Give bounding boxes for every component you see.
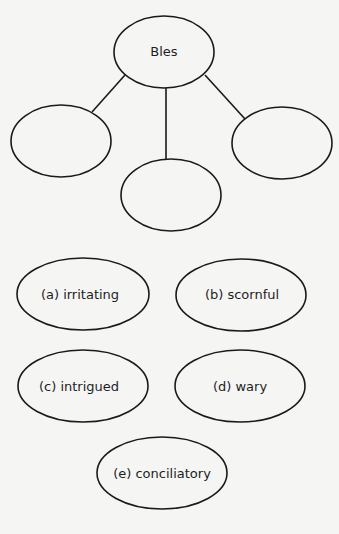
word-web-diagram: Bles (a) irritating (b) scornful (c) int…	[0, 0, 339, 534]
center-node-label: Bles	[150, 45, 177, 58]
option-b-label: (b) scornful	[205, 288, 279, 301]
spoke-node-middle[interactable]	[121, 159, 221, 231]
diagram-shapes	[0, 0, 339, 534]
spoke-node-right[interactable]	[232, 107, 332, 179]
connector-right	[205, 75, 245, 119]
option-a-label: (a) irritating	[41, 288, 119, 301]
option-d-label: (d) wary	[213, 380, 267, 393]
option-c-label: (c) intrigued	[39, 380, 119, 393]
spoke-node-left[interactable]	[11, 105, 111, 177]
connector-left	[92, 75, 125, 112]
option-e-label: (e) conciliatory	[113, 467, 211, 480]
